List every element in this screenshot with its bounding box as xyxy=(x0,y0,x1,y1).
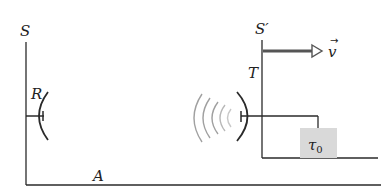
ground-label: A xyxy=(91,167,104,185)
frame-s-prime-label: S′ xyxy=(255,20,269,38)
relativity-diagram: S R S′ v → T τ0 A xyxy=(0,0,382,193)
receiver-label: R xyxy=(30,85,42,103)
frame-s-label: S xyxy=(20,22,30,40)
velocity-arrow-icon xyxy=(263,45,322,57)
transmitter-label: T xyxy=(248,64,259,82)
signal-waves-icon xyxy=(194,94,231,142)
vector-arrow-accent: → xyxy=(330,35,338,46)
